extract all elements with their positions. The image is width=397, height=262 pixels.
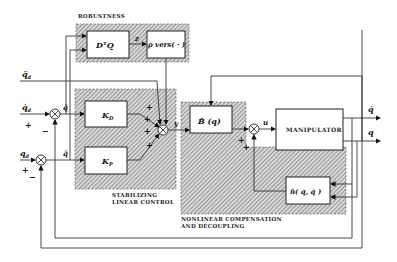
sum-junction-q [36,155,46,165]
svg-text:+: + [25,121,32,130]
control-block-diagram: ROBUSTNESS DᵀQ ρ vers( · ) z STABILIZING… [0,0,397,262]
svg-text:−: − [29,173,36,182]
manipulator-label: MANIPULATOR [286,126,343,133]
n-hat-label: n̂( q, q̇ ) [290,187,321,196]
svg-text:−: − [42,127,49,136]
svg-text:+: + [22,166,29,175]
signal-u: u [263,118,268,127]
input-qdd-d: q̈d [22,69,32,80]
output-q: q [368,127,374,137]
svg-text:+: + [146,141,153,150]
input-q-d: qd [20,148,30,159]
svg-text:+: + [146,103,153,112]
output-qdot: q̇ [368,104,374,114]
sum-junction-main [158,125,168,135]
signal-qtilde: q̃ [63,149,68,158]
sum-junction-qdot [50,109,60,119]
b-hat-label: B̂ (q) [197,116,221,126]
stabilizing-label: STABILIZING [112,192,157,198]
svg-text:+: + [243,143,250,152]
svg-text:+: + [144,115,151,124]
sum-junction-u [249,124,259,134]
signal-qtilde-dot: q̃̇ [63,103,68,112]
nonlinear-label: NONLINEAR COMPENSATION [181,216,282,222]
dtq-label: DᵀQ [95,40,114,50]
svg-text:+: + [144,127,151,136]
linear-control-label: LINEAR CONTROL [112,199,174,205]
input-qdot-d: q̇d [22,102,32,113]
rho-vers-label: ρ vers( · ) [147,40,185,49]
robustness-label: ROBUSTNESS [78,13,125,19]
decoupling-label: AND DECOUPLING [180,223,244,229]
signal-y: y [173,119,179,128]
